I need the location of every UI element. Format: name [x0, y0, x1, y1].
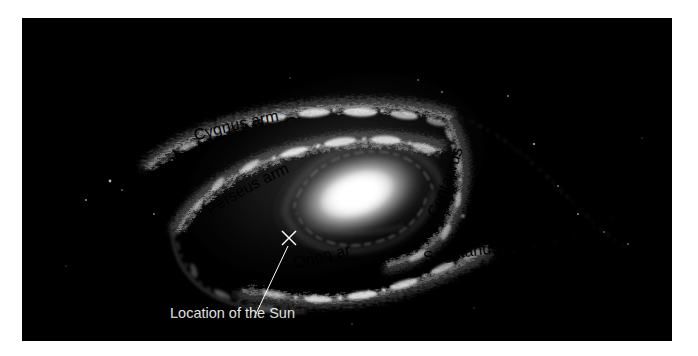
label-location-of-the-sun: Location of the Sun — [170, 305, 295, 321]
galaxy-illustration: Cygnus arm Perseus arm Centaurus arm Sag… — [22, 18, 672, 341]
galaxy-figure: Cygnus arm Perseus arm Centaurus arm Sag… — [22, 18, 672, 341]
